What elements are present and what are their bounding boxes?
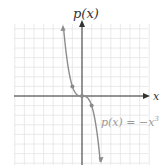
y-axis-label: p(x) — [73, 6, 99, 21]
curve-arrow-up-icon — [61, 25, 66, 31]
data-point — [80, 94, 84, 98]
exponent-3: 3 — [154, 115, 159, 123]
cubic-function-chart: p(x) x p(x) = −x3 — [0, 0, 166, 168]
data-point — [90, 104, 94, 108]
data-point — [70, 84, 74, 88]
curve-arrow-down-icon — [99, 157, 104, 163]
y-axis-arrow-icon — [79, 20, 85, 27]
x-axis-label: x — [153, 90, 160, 103]
y-axis — [79, 20, 85, 165]
function-label: p(x) = −x3 — [101, 115, 159, 129]
